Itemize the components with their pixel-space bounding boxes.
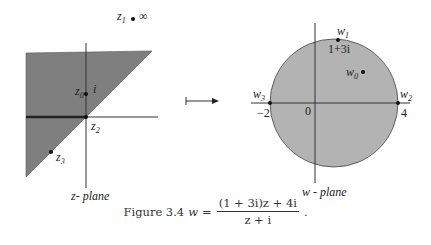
w3-value: −2: [257, 106, 270, 120]
z3-point: [49, 150, 53, 154]
z-plane-shaded-region: [26, 51, 152, 177]
formula-equals: =: [202, 205, 212, 219]
z2-point: [84, 115, 88, 119]
w-plane: 0 w1 1+3i w0 w3 −2 w2 4 w - plane: [251, 23, 412, 199]
z0-value-i: i: [93, 82, 96, 96]
w1-label: w1: [337, 24, 349, 40]
formula-lhs: w: [188, 205, 198, 219]
w1-value: 1+3i: [328, 42, 351, 56]
z3-label: z3: [55, 150, 65, 166]
z1-label: z1: [116, 9, 126, 25]
maps-to-arrow-icon: [186, 97, 219, 105]
w2-label: w2: [400, 87, 412, 103]
z1-point: [131, 17, 135, 21]
formula-denominator: z + i: [244, 212, 271, 227]
figure-number: Figure 3.4: [123, 205, 184, 219]
z2-label: z2: [90, 119, 100, 135]
z0-point: [84, 92, 88, 96]
formula-numerator: (1 + 3i)z + 4i: [217, 196, 299, 212]
w2-point: [396, 101, 400, 105]
formula-period: .: [304, 205, 308, 219]
w2-value: 4: [401, 106, 407, 120]
figure-caption: Figure 3.4 w = (1 + 3i)z + 4i z + i .: [0, 196, 431, 227]
formula-fraction: (1 + 3i)z + 4i z + i: [217, 196, 299, 227]
w3-point: [268, 101, 272, 105]
w0-point: [361, 70, 365, 74]
z-plane: z1 ∞ z0 i z2 z3 z- plane: [26, 9, 158, 203]
w3-label: w3: [253, 87, 265, 103]
w-plane-origin-label: 0: [305, 104, 311, 118]
z1-value-infinity: ∞: [139, 9, 148, 23]
